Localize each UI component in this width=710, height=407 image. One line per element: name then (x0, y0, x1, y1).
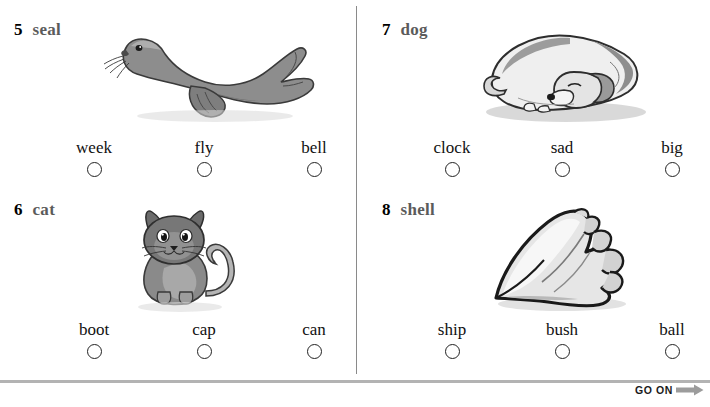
item-5-choice-2[interactable]: fly (164, 138, 244, 177)
item-7-number: 7 (382, 20, 391, 40)
item-7-choice-2[interactable]: sad (522, 138, 602, 177)
item-5-choice-3[interactable]: bell (274, 138, 354, 177)
seal-drawing (95, 16, 325, 126)
cat-drawing (118, 198, 253, 318)
arrow-right-icon (676, 384, 704, 396)
item-7-choice-2-label: sad (551, 138, 574, 158)
item-6-choice-1-bubble[interactable] (87, 344, 102, 359)
item-7-word: dog (401, 20, 428, 40)
item-5-choice-1-bubble[interactable] (87, 162, 102, 177)
item-5-choice-1[interactable]: week (54, 138, 134, 177)
item-7-choice-1[interactable]: clock (412, 138, 492, 177)
item-8-choice-2[interactable]: bush (522, 320, 602, 359)
item-5-heading: 5 seal (14, 20, 61, 40)
item-7-choice-1-bubble[interactable] (445, 162, 460, 177)
item-7-choice-3[interactable]: big (632, 138, 710, 177)
item-6-choice-2[interactable]: cap (164, 320, 244, 359)
question-item-5: 5 seal (14, 20, 61, 40)
item-8-choice-2-bubble[interactable] (555, 344, 570, 359)
item-6-choice-2-bubble[interactable] (197, 344, 212, 359)
shell-illustration (478, 200, 648, 318)
dog-drawing (470, 20, 660, 125)
item-5-word: seal (33, 20, 62, 40)
item-8-choice-1[interactable]: ship (412, 320, 492, 359)
item-8-choices: ship bush ball (412, 320, 710, 359)
shell-drawing (478, 200, 648, 318)
item-8-choice-3-label: ball (659, 320, 685, 340)
item-8-choice-3-bubble[interactable] (665, 344, 680, 359)
question-item-7: 7 dog (382, 20, 428, 40)
item-5-choice-2-label: fly (195, 138, 214, 158)
item-6-choice-3[interactable]: can (274, 320, 354, 359)
item-8-choice-3[interactable]: ball (632, 320, 710, 359)
item-6-choice-1[interactable]: boot (54, 320, 134, 359)
item-5-number: 5 (14, 20, 23, 40)
item-6-heading: 6 cat (14, 200, 55, 220)
item-6-choice-1-label: boot (79, 320, 109, 340)
worksheet-page: 5 seal (0, 0, 710, 407)
item-8-word: shell (401, 200, 436, 220)
item-5-choice-1-label: week (76, 138, 112, 158)
item-5-choice-2-bubble[interactable] (197, 162, 212, 177)
item-8-choice-1-label: ship (438, 320, 466, 340)
dog-illustration (470, 20, 660, 125)
item-5-choices: week fly bell (54, 138, 354, 177)
item-8-choice-1-bubble[interactable] (445, 344, 460, 359)
question-item-8: 8 shell (382, 200, 435, 220)
item-5-choice-3-label: bell (301, 138, 327, 158)
item-7-choice-2-bubble[interactable] (555, 162, 570, 177)
item-7-choice-3-bubble[interactable] (665, 162, 680, 177)
item-6-choice-2-label: cap (192, 320, 216, 340)
cat-illustration (118, 198, 253, 318)
item-5-choice-3-bubble[interactable] (307, 162, 322, 177)
item-7-choice-3-label: big (661, 138, 683, 158)
item-7-choices: clock sad big (412, 138, 710, 177)
question-item-6: 6 cat (14, 200, 55, 220)
item-6-choice-3-bubble[interactable] (307, 344, 322, 359)
item-8-number: 8 (382, 200, 391, 220)
item-6-choice-3-label: can (302, 320, 326, 340)
item-6-word: cat (33, 200, 56, 220)
item-7-heading: 7 dog (382, 20, 428, 40)
item-8-heading: 8 shell (382, 200, 435, 220)
seal-illustration (95, 16, 325, 126)
go-on-footer: GO ON (635, 384, 704, 396)
go-on-label: GO ON (635, 384, 673, 396)
item-7-choice-1-label: clock (434, 138, 471, 158)
bottom-rule (0, 380, 710, 383)
item-6-number: 6 (14, 200, 23, 220)
item-8-choice-2-label: bush (546, 320, 578, 340)
item-6-choices: boot cap can (54, 320, 354, 359)
column-divider (356, 6, 357, 374)
